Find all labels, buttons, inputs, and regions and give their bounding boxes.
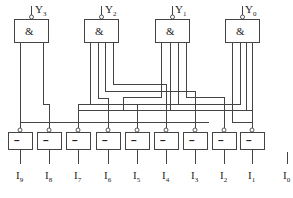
svg-text:–: – bbox=[72, 135, 78, 146]
svg-text:–: – bbox=[131, 135, 137, 146]
inverter-i4: – I4 bbox=[155, 128, 179, 184]
inverter-i2: – I2 bbox=[213, 128, 237, 184]
input-label-i3: I3 bbox=[191, 169, 199, 184]
and-symbol: & bbox=[236, 25, 245, 37]
inverter-i6: – I6 bbox=[97, 128, 121, 184]
svg-text:–: – bbox=[189, 135, 195, 146]
input-label-i4: I4 bbox=[162, 169, 170, 184]
input-label-i6: I6 bbox=[104, 169, 112, 184]
output-label-y0: Y0 bbox=[245, 3, 257, 18]
input-label-i2: I2 bbox=[220, 169, 228, 184]
wiring bbox=[21, 42, 253, 128]
inverter-i8: – I8 bbox=[38, 128, 62, 184]
input-label-i5: I5 bbox=[133, 169, 141, 184]
input-label-i8: I8 bbox=[45, 169, 53, 184]
inverter-i9: – I9 bbox=[9, 128, 33, 184]
svg-text:–: – bbox=[160, 135, 166, 146]
input-label-i0: I0 bbox=[283, 169, 291, 184]
inverter-i3: – I3 bbox=[184, 128, 208, 184]
and-gate-y2: & Y2 bbox=[85, 3, 119, 43]
svg-text:–: – bbox=[43, 135, 49, 146]
and-gate-y1: & Y1 bbox=[156, 3, 190, 43]
input-label-i9: I9 bbox=[16, 169, 24, 184]
svg-text:–: – bbox=[14, 135, 20, 146]
and-gate-y3: & Y3 bbox=[15, 3, 49, 43]
inverter-i7: – I7 bbox=[67, 128, 91, 184]
output-label-y1: Y1 bbox=[175, 3, 187, 18]
output-label-y2: Y2 bbox=[105, 3, 117, 18]
svg-text:–: – bbox=[102, 135, 108, 146]
unused-input-i0: I0 bbox=[283, 152, 291, 184]
inverter-i1: – I1 bbox=[241, 128, 265, 184]
input-label-i1: I1 bbox=[248, 169, 256, 184]
and-gate-y0: & Y0 bbox=[226, 3, 260, 43]
output-label-y3: Y3 bbox=[35, 3, 47, 18]
and-symbol: & bbox=[166, 25, 175, 37]
svg-text:–: – bbox=[246, 135, 252, 146]
svg-text:–: – bbox=[218, 135, 224, 146]
inverter-i5: – I5 bbox=[126, 128, 150, 184]
and-symbol: & bbox=[95, 25, 104, 37]
input-label-i7: I7 bbox=[74, 169, 82, 184]
encoder-circuit-diagram: & Y3 & Y2 & Y1 & Y0 bbox=[0, 0, 293, 198]
and-symbol: & bbox=[25, 25, 34, 37]
